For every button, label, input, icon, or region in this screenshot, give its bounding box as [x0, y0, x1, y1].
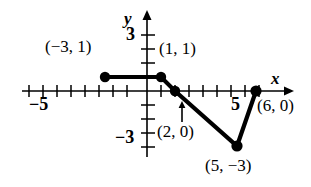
x-tick-label-5: 5 — [231, 95, 240, 113]
x-axis-label: x — [271, 70, 280, 87]
y-axis-arrowhead — [143, 10, 152, 20]
point-label-5-minus3: (5, −3) — [205, 157, 251, 174]
graph-figure: y x 3 −3 −5 5 (−3, 1) (1, 1) (2, 0) (5, … — [0, 0, 311, 187]
arrow-up-icon — [179, 101, 186, 122]
point-label-6-0: (6, 0) — [257, 97, 294, 114]
data-point-2-0 — [170, 86, 180, 96]
data-point-6-0 — [250, 85, 261, 96]
data-point-1-1 — [156, 72, 166, 82]
point-label-1-1: (1, 1) — [159, 40, 196, 57]
data-point-minus3-1 — [100, 72, 110, 82]
x-tick-label-minus-5: −5 — [29, 95, 48, 113]
data-point-5-minus3 — [231, 140, 242, 151]
point-label-minus3-1: (−3, 1) — [45, 38, 91, 55]
point-label-2-0: (2, 0) — [157, 123, 194, 140]
x-axis-arrowhead — [284, 87, 294, 96]
y-tick-label-3: 3 — [126, 25, 135, 43]
y-tick-label-minus-3: −3 — [115, 128, 134, 146]
